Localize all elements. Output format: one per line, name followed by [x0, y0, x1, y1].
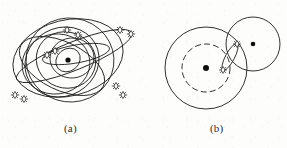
panel-a-caption: (a) — [64, 122, 77, 134]
figure-root: (a) (b) — [0, 0, 287, 148]
secondary-body-dot-icon — [251, 42, 256, 47]
central-body-dot-icon — [65, 57, 70, 62]
panel-b-orbit-diagram — [150, 0, 287, 122]
orbit-ring-8 — [41, 39, 111, 69]
satellite-icon — [233, 40, 241, 48]
satellite-icon — [112, 82, 120, 90]
satellite-icon — [20, 95, 28, 103]
satellite-icon — [63, 26, 71, 34]
satellite-icon — [43, 51, 51, 59]
satellite-icon — [11, 91, 19, 99]
satellite-icon — [116, 26, 124, 34]
satellite-icon — [127, 30, 135, 38]
panel-a-orbit-diagram — [0, 0, 150, 122]
satellite-icon — [74, 31, 82, 39]
satellite-icon — [119, 91, 127, 99]
central-body-dot-icon — [203, 65, 209, 71]
panel-b-caption: (b) — [210, 122, 223, 134]
satellite-icon — [51, 47, 59, 55]
satellite-icon — [219, 66, 227, 74]
orbit-ring-3 — [12, 14, 112, 111]
